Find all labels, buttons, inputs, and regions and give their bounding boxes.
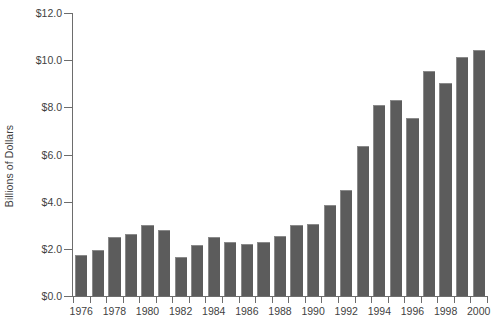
x-tick-mark <box>90 297 91 303</box>
x-tick-mark <box>487 297 488 303</box>
bar <box>257 242 269 296</box>
bar <box>473 50 485 296</box>
y-tick-mark <box>64 13 73 14</box>
x-tick-label: 2000 <box>456 305 495 317</box>
x-tick-mark <box>73 297 74 303</box>
bar <box>357 146 369 296</box>
y-tick-label: $4.0 <box>14 196 62 208</box>
x-tick-mark <box>454 297 455 303</box>
x-tick-mark <box>371 297 372 303</box>
bar <box>423 71 435 296</box>
x-tick-mark <box>355 297 356 303</box>
bar <box>175 257 187 296</box>
y-tick-mark <box>64 107 73 108</box>
y-tick-label: $8.0 <box>14 101 62 113</box>
x-tick-mark <box>470 297 471 303</box>
bar <box>274 236 286 296</box>
y-tick-mark <box>64 249 73 250</box>
x-tick-mark <box>222 297 223 303</box>
x-tick-mark <box>338 297 339 303</box>
x-tick-mark <box>205 297 206 303</box>
bar <box>158 230 170 296</box>
bar <box>241 244 253 296</box>
x-tick-mark <box>156 297 157 303</box>
bar <box>208 237 220 296</box>
x-tick-mark <box>255 297 256 303</box>
bar <box>191 245 203 296</box>
x-tick-mark <box>106 297 107 303</box>
y-tick-mark <box>64 155 73 156</box>
y-tick-label: $2.0 <box>14 243 62 255</box>
bar <box>456 57 468 296</box>
x-axis-line <box>64 296 488 297</box>
bar <box>373 105 385 296</box>
x-tick-mark <box>421 297 422 303</box>
y-tick-mark <box>64 202 73 203</box>
y-tick-label: $6.0 <box>14 149 62 161</box>
bar <box>125 234 137 296</box>
y-tick-label: $10.0 <box>14 54 62 66</box>
bar <box>340 190 352 296</box>
bar <box>224 242 236 296</box>
bar <box>307 224 319 296</box>
x-tick-mark <box>189 297 190 303</box>
x-tick-mark <box>437 297 438 303</box>
bar <box>141 225 153 296</box>
x-tick-mark <box>139 297 140 303</box>
x-tick-mark <box>123 297 124 303</box>
bar <box>439 83 451 296</box>
y-tick-mark <box>64 60 73 61</box>
bar-chart: Billions of Dollars $0.0$2.0$4.0$6.0$8.0… <box>0 0 495 332</box>
y-tick-mark <box>64 296 73 297</box>
bar <box>406 118 418 296</box>
x-tick-mark <box>239 297 240 303</box>
bar <box>324 205 336 296</box>
bar <box>75 255 87 296</box>
x-tick-mark <box>321 297 322 303</box>
bar <box>108 237 120 296</box>
x-tick-mark <box>288 297 289 303</box>
x-tick-mark <box>388 297 389 303</box>
x-tick-mark <box>404 297 405 303</box>
x-tick-mark <box>305 297 306 303</box>
x-tick-mark <box>172 297 173 303</box>
bar <box>290 225 302 296</box>
y-axis-title: Billions of Dollars <box>0 0 18 332</box>
bar <box>92 250 104 296</box>
y-tick-label: $12.0 <box>14 7 62 19</box>
x-tick-mark <box>272 297 273 303</box>
y-tick-label: $0.0 <box>14 290 62 302</box>
bar <box>390 100 402 296</box>
